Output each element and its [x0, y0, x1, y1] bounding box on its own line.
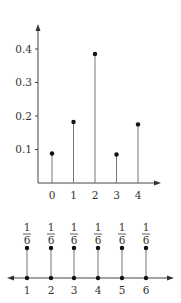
stem-point: [114, 152, 118, 156]
fraction-denominator: 6: [95, 234, 102, 246]
x-tick-label: 4: [95, 284, 102, 296]
stem-point: [50, 151, 54, 155]
stem-point-top: [144, 246, 148, 250]
x-tick-labels: 01234: [49, 189, 142, 201]
stem-point-base: [25, 276, 29, 280]
x-tick-label: 3: [71, 284, 78, 296]
stem-point-base: [144, 276, 148, 280]
x-tick-label: 1: [70, 189, 77, 201]
x-tick-label: 0: [49, 189, 56, 201]
fraction-denominator: 6: [48, 234, 55, 246]
fraction-numerator: 1: [24, 221, 31, 233]
stem-point-base: [72, 276, 76, 280]
fraction-numerator: 1: [119, 221, 126, 233]
x-tick-label: 6: [143, 284, 150, 296]
x-tick-label: 5: [119, 284, 126, 296]
fraction-denominator: 6: [143, 234, 150, 246]
stem-point-top: [49, 246, 53, 250]
stems: [25, 246, 148, 280]
x-tick-labels: 123456: [24, 284, 150, 296]
fraction-numerator: 1: [71, 221, 78, 233]
stem-point: [93, 52, 97, 56]
stem-point-top: [72, 246, 76, 250]
right-arrow-icon: [167, 276, 174, 281]
x-axis-arrow-icon: [154, 181, 161, 186]
stem-point: [71, 120, 75, 124]
x-tick-label: 2: [48, 284, 55, 296]
fraction-denominator: 6: [71, 234, 78, 246]
stem-point-top: [120, 246, 124, 250]
stem-point-base: [49, 276, 53, 280]
figure: 0.10.20.30.4 01234 123456 161616161616: [0, 0, 181, 303]
fraction-denominator: 6: [119, 234, 126, 246]
x-tick-label: 3: [113, 189, 120, 201]
y-axis-arrow-icon: [36, 24, 41, 31]
stem-point-base: [120, 276, 124, 280]
value-labels: 161616161616: [23, 221, 150, 246]
stem-point-base: [96, 276, 100, 280]
y-tick-label: 0.4: [15, 43, 32, 55]
x-tick-label: 2: [92, 189, 99, 201]
fraction-numerator: 1: [48, 221, 55, 233]
fraction-numerator: 1: [95, 221, 102, 233]
y-ticks: 0.10.20.30.4: [15, 43, 38, 156]
y-tick-label: 0.2: [15, 110, 32, 122]
stem-point-top: [25, 246, 29, 250]
y-tick-label: 0.3: [15, 76, 32, 88]
stem-chart-bottom: 123456 161616161616: [7, 221, 174, 296]
x-tick-label: 1: [24, 284, 31, 296]
stem-chart-top: 0.10.20.30.4 01234: [15, 24, 161, 201]
x-tick-label: 4: [135, 189, 142, 201]
y-tick-label: 0.1: [15, 143, 32, 155]
left-arrow-icon: [7, 276, 14, 281]
fraction-numerator: 1: [143, 221, 150, 233]
stems: [50, 52, 140, 183]
stem-point: [136, 122, 140, 126]
fraction-denominator: 6: [24, 234, 31, 246]
stem-point-top: [96, 246, 100, 250]
